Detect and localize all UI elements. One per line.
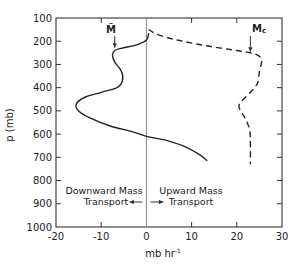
- m-tilde-label: M̃: [106, 23, 116, 35]
- x-tick-label: -20: [48, 231, 64, 242]
- x-tick-label: 30: [276, 231, 289, 242]
- x-tick-label: -10: [93, 231, 109, 242]
- y-tick-label: 200: [33, 36, 52, 47]
- y-axis-label: p (mb): [4, 108, 15, 142]
- upward-arrow-icon: [150, 200, 163, 204]
- x-tick-label: 10: [185, 231, 198, 242]
- x-axis-ticks: -20-100102030: [48, 18, 289, 242]
- y-tick-label: 600: [33, 129, 52, 140]
- y-axis-ticks: 1002003004005006007008009001000: [27, 13, 282, 233]
- y-tick-label: 300: [33, 59, 52, 70]
- upward-label-line2: Transport: [168, 196, 214, 207]
- mc-label-base: M: [252, 23, 262, 34]
- downward-arrow-icon: [129, 200, 142, 204]
- downward-label-line1: Downward Mass: [65, 185, 142, 196]
- x-tick-label: 20: [230, 231, 243, 242]
- series-m-tilde-line: [76, 33, 208, 161]
- series-group: [76, 30, 262, 165]
- series-mc-line: [149, 30, 262, 165]
- y-tick-label: 100: [33, 13, 52, 24]
- mass-transport-chart: 1002003004005006007008009001000 -20-1001…: [0, 0, 301, 271]
- x-tick-label: 0: [143, 231, 149, 242]
- downward-label-line2: Transport: [83, 196, 129, 207]
- y-tick-label: 400: [33, 82, 52, 93]
- x-axis-label-base: mb hr: [145, 248, 176, 259]
- x-axis-label-sup: -1: [175, 247, 181, 254]
- mc-label: Mc: [252, 23, 266, 35]
- y-tick-label: 900: [33, 198, 52, 209]
- mc-label-sub: c: [262, 27, 266, 35]
- y-tick-label: 700: [33, 152, 52, 163]
- y-tick-label: 500: [33, 105, 52, 116]
- m-tilde-arrow: [113, 36, 117, 48]
- annotations: [113, 36, 253, 204]
- x-axis-label: mb hr-1: [145, 247, 181, 259]
- mc-arrow: [248, 36, 252, 52]
- y-tick-label: 800: [33, 175, 52, 186]
- upward-label-line1: Upward Mass: [159, 185, 222, 196]
